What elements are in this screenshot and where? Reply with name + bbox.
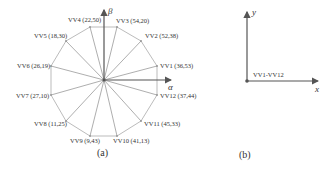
panel-a-caption: (a): [97, 147, 108, 159]
vector-label-vv10: VV10 (41,13): [113, 137, 149, 145]
panel-b: VV1-VV12 x y (b): [239, 7, 319, 161]
vector-label-vv12: VV12 (37,44): [160, 92, 196, 100]
vector-label-vv2: VV2 (52,38): [145, 32, 178, 40]
vector-label-vv4: VV4 (22,50): [68, 16, 101, 24]
diagram-canvas: α β VV1 (36,53) VV2 (52,38) VV3 (54,20) …: [0, 0, 332, 170]
origin-label: VV1-VV12: [253, 71, 284, 78]
x-axis-label: x: [314, 84, 319, 94]
vector-label-vv7: VV7 (27,10): [16, 92, 49, 100]
panel-b-caption: (b): [239, 149, 251, 161]
vector-label-vv5: VV5 (18,30): [34, 32, 67, 40]
vector-label-vv1: VV1 (36,53): [160, 62, 193, 70]
alpha-axis-label: α: [168, 82, 173, 92]
vector-label-vv11: VV11 (45,33): [144, 120, 180, 128]
y-axis-label: y: [251, 7, 256, 17]
vector-label-vv3: VV3 (54,20): [116, 17, 149, 25]
origin-dot: [245, 79, 249, 83]
origin-dot: [103, 79, 106, 82]
vector-label-vv9: VV9 (9,43): [70, 137, 100, 145]
beta-axis-label: β: [107, 6, 113, 16]
vector-label-vv8: VV8 (11,25): [34, 120, 67, 128]
vector-label-vv6: VV6 (26,19): [17, 62, 50, 70]
panel-a: α β VV1 (36,53) VV2 (52,38) VV3 (54,20) …: [16, 6, 196, 159]
